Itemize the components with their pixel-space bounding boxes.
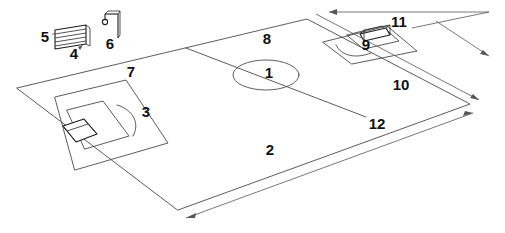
callout-6: 6: [106, 35, 114, 52]
dimension-near-touchline: [186, 111, 473, 218]
dimension-top-edge: [329, 9, 489, 56]
halfway-line: [186, 48, 366, 117]
pitch-diagram: 1 2 3 4 5 6 7 8 9 10 11 12: [0, 0, 505, 233]
callout-7: 7: [127, 63, 135, 80]
callout-2: 2: [266, 141, 274, 158]
pitch-outline: [17, 19, 470, 210]
callout-9: 9: [362, 36, 370, 53]
callout-11: 11: [391, 13, 407, 30]
callout-10: 10: [393, 76, 410, 93]
diagram-canvas: 1 2 3 4 5 6 7 8 9 10 11 12: [0, 0, 505, 233]
left-penalty-arc: [117, 105, 136, 136]
left-goal: [63, 119, 97, 142]
callout-8: 8: [263, 30, 271, 47]
callout-3: 3: [142, 103, 150, 120]
corner-flag-pole: [102, 11, 120, 38]
callout-12: 12: [369, 115, 386, 132]
callout-5: 5: [41, 28, 49, 45]
callout-4: 4: [70, 45, 79, 62]
callout-1: 1: [265, 64, 273, 81]
callout-labels: 1 2 3 4 5 6 7 8 9 10 11 12: [41, 13, 410, 158]
